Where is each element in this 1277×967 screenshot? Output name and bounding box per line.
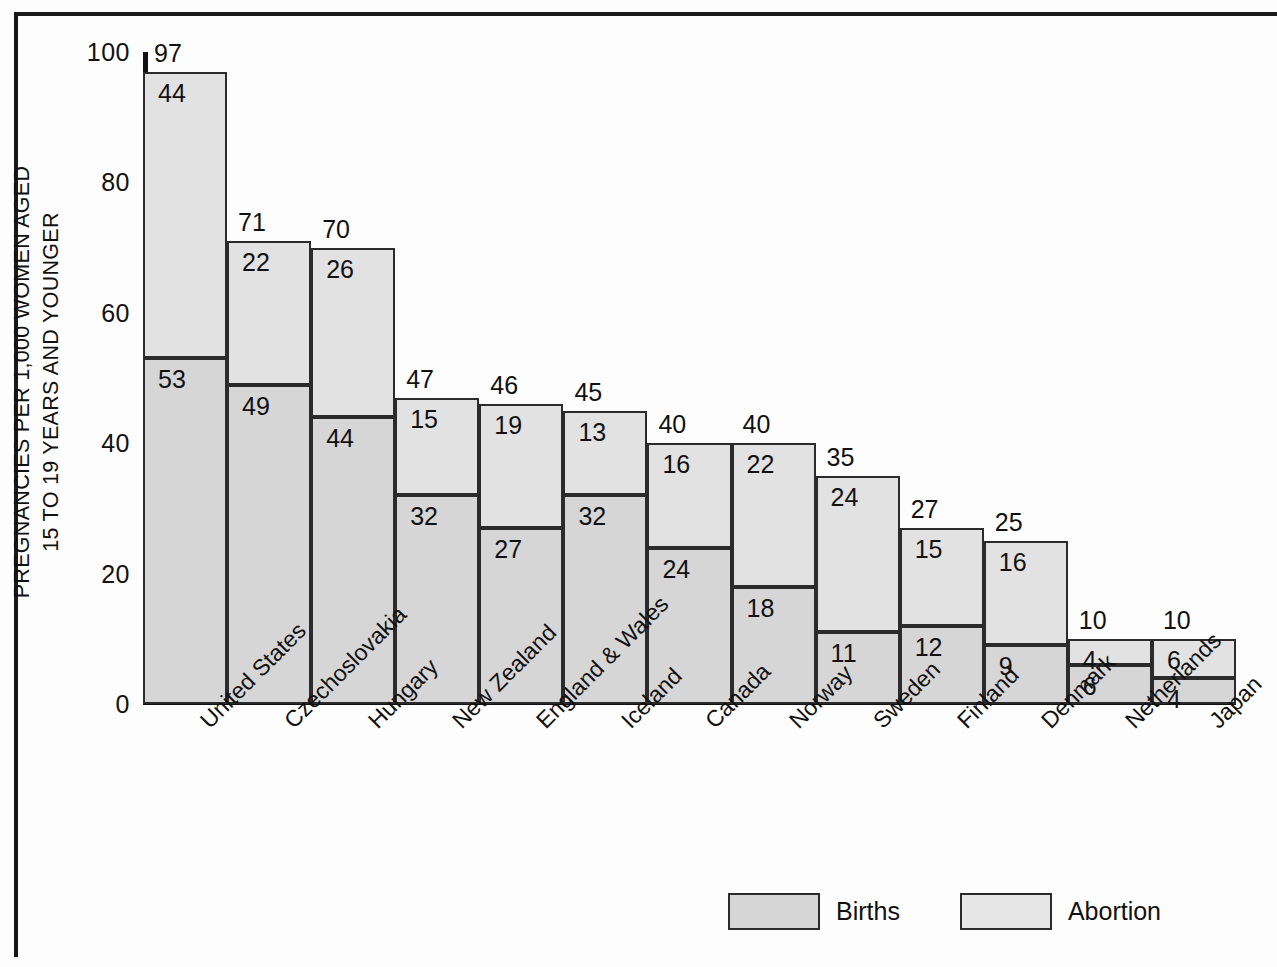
bar-total-value: 46 [490, 371, 518, 400]
x-axis-label: Japan [1204, 715, 1223, 734]
bar-segment-value-abortion: 26 [326, 255, 354, 284]
bar-group[interactable]: 182240 [732, 443, 816, 704]
x-axis-label: Netherlands [1120, 715, 1139, 734]
y-axis-title-line-1: PREGNANCIES PER 1,000 WOMEN AGED [8, 102, 37, 662]
x-axis-label: Denmark [1036, 715, 1055, 734]
chart-legend: BirthsAbortion [728, 893, 1161, 930]
bar-segment-abortion[interactable]: 13 [563, 411, 647, 496]
bar-segment-value-births: 32 [410, 502, 438, 531]
bar-total-value: 70 [322, 215, 350, 244]
frame-top-rule [14, 12, 1277, 16]
bar-segment-value-births: 53 [158, 365, 186, 394]
bar-total-value: 10 [1163, 606, 1191, 635]
y-tick-label: 100 [87, 38, 130, 67]
y-axis-tick-labels: 020406080100 [62, 52, 130, 704]
bar-total-value: 40 [743, 410, 771, 439]
bar-group[interactable]: 241640 [647, 443, 731, 704]
plot-area: 5344974922714426703215472719463213452416… [143, 52, 1236, 704]
bar-segment-abortion[interactable]: 19 [479, 404, 563, 528]
x-axis-label: Norway [784, 715, 803, 734]
x-axis-category-labels: United StatesCzechoslovakiaHungaryNew Ze… [143, 705, 1236, 885]
bar-segment-value-births: 18 [747, 594, 775, 623]
bar-segment-abortion[interactable]: 24 [816, 476, 900, 632]
bar-segment-value-births: 24 [662, 555, 690, 584]
legend-item[interactable]: Births [728, 893, 900, 930]
y-tick-label: 40 [101, 429, 130, 458]
bar-segment-value-births: 27 [494, 535, 522, 564]
bar-segment-births[interactable]: 53 [143, 358, 227, 704]
x-axis-label: Canada [700, 715, 719, 734]
bar-segment-value-abortion: 24 [831, 483, 859, 512]
bar-segment-value-abortion: 15 [915, 535, 943, 564]
bar-segment-value-abortion: 16 [999, 548, 1027, 577]
bar-total-value: 25 [995, 508, 1023, 537]
y-tick-label: 60 [101, 298, 130, 327]
bar-segment-abortion[interactable]: 16 [647, 443, 731, 547]
x-axis-label: Finland [952, 715, 971, 734]
bar-total-value: 97 [154, 39, 182, 68]
bar-segment-value-abortion: 15 [410, 405, 438, 434]
legend-label: Abortion [1068, 897, 1161, 926]
bar-total-value: 27 [911, 495, 939, 524]
bar-total-value: 45 [574, 378, 602, 407]
x-axis-label: Czechoslovakia [279, 715, 298, 734]
bar-total-value: 10 [1079, 606, 1107, 635]
bar-segment-value-abortion: 19 [494, 411, 522, 440]
legend-swatch [728, 893, 820, 930]
y-tick-label: 80 [101, 168, 130, 197]
bar-segment-value-abortion: 22 [747, 450, 775, 479]
bar-segment-abortion[interactable]: 22 [732, 443, 816, 586]
bar-total-value: 71 [238, 208, 266, 237]
x-axis-label: England & Wales [531, 715, 550, 734]
bar-group[interactable]: 321547 [395, 398, 479, 704]
y-tick-label: 0 [116, 690, 130, 719]
bar-segment-abortion[interactable]: 26 [311, 248, 395, 418]
bar-segment-value-births: 49 [242, 392, 270, 421]
bar-segment-value-abortion: 16 [662, 450, 690, 479]
bar-total-value: 40 [658, 410, 686, 439]
bar-total-value: 47 [406, 365, 434, 394]
bar-total-value: 35 [827, 443, 855, 472]
y-axis-title: PREGNANCIES PER 1,000 WOMEN AGED 15 TO 1… [8, 102, 66, 662]
chart-figure: PREGNANCIES PER 1,000 WOMEN AGED 15 TO 1… [0, 0, 1277, 967]
bar-group[interactable]: 534497 [143, 72, 227, 704]
x-axis-label: Sweden [868, 715, 887, 734]
bar-segment-abortion[interactable]: 16 [984, 541, 1068, 645]
x-axis-label: United States [195, 715, 214, 734]
bar-segment-abortion[interactable]: 44 [143, 72, 227, 359]
bar-segment-abortion[interactable]: 15 [900, 528, 984, 626]
bar-segment-value-abortion: 44 [158, 79, 186, 108]
y-tick-label: 20 [101, 559, 130, 588]
bar-segment-value-births: 44 [326, 424, 354, 453]
x-axis-label: New Zealand [447, 715, 466, 734]
bar-segment-value-abortion: 22 [242, 248, 270, 277]
legend-swatch [960, 893, 1052, 930]
bar-segment-value-births: 32 [578, 502, 606, 531]
bar-segment-abortion[interactable]: 15 [395, 398, 479, 496]
legend-item[interactable]: Abortion [960, 893, 1161, 930]
x-axis-label: Iceland [616, 715, 635, 734]
bar-segment-abortion[interactable]: 22 [227, 241, 311, 384]
bar-segment-value-abortion: 13 [578, 418, 606, 447]
x-axis-label: Hungary [363, 715, 382, 734]
legend-label: Births [836, 897, 900, 926]
